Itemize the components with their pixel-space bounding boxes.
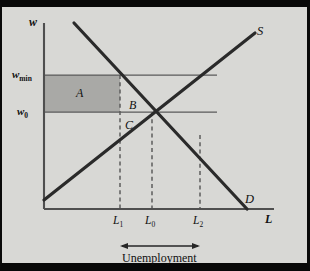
supply-demand-diagram: w L wmin w0 L1 L0 L2 S D A B C Unemploym… (2, 7, 310, 271)
wage-tick-w-min-sub: min (19, 74, 32, 83)
labor-tick-l-zero: L0 (145, 215, 155, 229)
wage-tick-w-zero-sub: 0 (24, 111, 28, 120)
supply-curve-label: S (257, 25, 263, 38)
labor-tick-l-two-sub: 2 (199, 220, 203, 229)
x-axis-label: L (265, 213, 272, 225)
labor-tick-l-one-sub: 1 (119, 220, 123, 229)
labor-tick-l-zero-sub: 0 (151, 220, 155, 229)
diagram-canvas (2, 7, 310, 271)
unemployment-arrow-left-head (120, 243, 128, 249)
y-axis-label: w (29, 16, 37, 28)
region-b-label: B (129, 99, 136, 111)
wage-tick-w-zero: w0 (17, 106, 28, 120)
labor-tick-l-two: L2 (193, 215, 203, 229)
figure-frame: w L wmin w0 L1 L0 L2 S D A B C Unemploym… (0, 0, 310, 271)
demand-curve (74, 23, 247, 209)
demand-curve-label: D (245, 193, 254, 206)
unemployment-arrow-right-head (192, 243, 200, 249)
unemployment-label: Unemployment (122, 252, 197, 264)
wage-tick-w-min: wmin (12, 69, 32, 83)
region-c-label: C (125, 119, 133, 131)
labor-tick-l-one: L1 (113, 215, 123, 229)
supply-curve (44, 33, 255, 200)
region-a-label: A (76, 87, 83, 99)
